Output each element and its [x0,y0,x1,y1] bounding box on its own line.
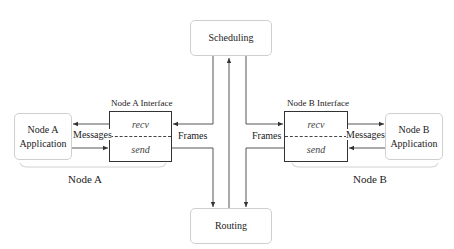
node-a-application-box: Node A Application [14,113,72,160]
node-a-send: send [110,137,171,161]
node-a-app-line2: Application [19,137,66,151]
node-b-frames-label: Frames [252,130,281,141]
node-b-app-line2: Application [390,137,437,151]
node-b-interface-box: recv send [284,111,348,162]
scheduling-box: Scheduling [190,20,272,56]
node-b-recv: recv [285,112,347,137]
node-a-group-label: Node A [68,173,102,185]
scheduling-label: Scheduling [209,31,254,45]
node-a-messages-label: Messages [73,129,112,140]
routing-label: Routing [215,219,247,233]
node-b-interface-title: Node B Interface [287,98,349,108]
node-b-send: send [285,137,347,161]
node-a-recv: recv [110,112,171,137]
routing-box: Routing [190,208,272,244]
node-a-interface-box: recv send [109,111,172,162]
node-a-frames-label: Frames [178,130,207,141]
node-b-group-label: Node B [353,173,387,185]
node-a-app-line1: Node A [28,123,59,137]
node-a-interface-title: Node A Interface [111,98,172,108]
node-b-app-line1: Node B [399,123,430,137]
node-b-messages-label: Messages [346,129,385,140]
node-b-application-box: Node B Application [385,113,443,160]
